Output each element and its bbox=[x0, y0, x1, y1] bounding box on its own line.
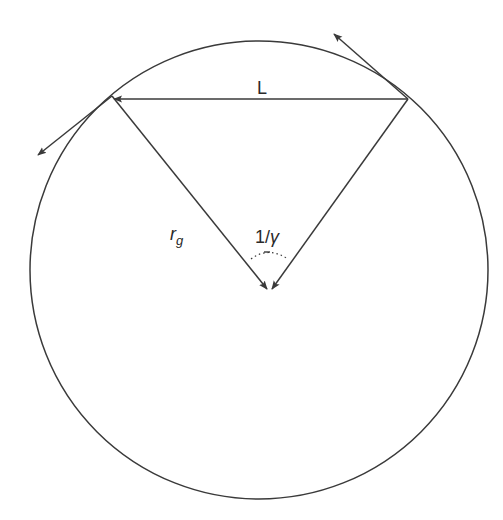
right-radius-arrow bbox=[272, 99, 408, 289]
radius-label-subscript: g bbox=[176, 233, 183, 248]
chord-label-text: L bbox=[257, 78, 267, 98]
angle-label-num: 1/ bbox=[255, 227, 270, 247]
chord-label: L bbox=[257, 79, 267, 97]
radius-label: rg bbox=[170, 225, 183, 243]
left-radius-arrow bbox=[112, 96, 267, 289]
angle-arc bbox=[251, 253, 288, 260]
angle-label-gamma: γ bbox=[270, 227, 279, 247]
angle-label: 1/γ bbox=[255, 228, 279, 246]
left-tangent-arrow bbox=[38, 96, 112, 155]
right-tangent-arrow bbox=[334, 34, 408, 99]
orbit-circle bbox=[30, 41, 488, 499]
gyroradius-diagram bbox=[0, 0, 503, 520]
